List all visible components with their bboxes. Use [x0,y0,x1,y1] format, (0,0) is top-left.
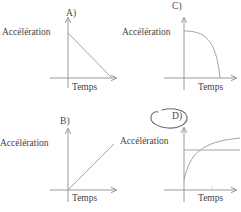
panel-d: D) Accélération Temps [120,106,240,212]
plot-b [0,106,120,212]
plot-a [0,0,120,106]
worksheet-page: A) Accélération Temps C) Accélération Te… [0,0,241,212]
handdrawn-ellipse-annotation [146,106,192,132]
panel-c: C) Accélération Temps [120,0,240,106]
curve-a [68,33,112,78]
curve-d [184,138,240,180]
panel-a: A) Accélération Temps [0,0,120,106]
curve-b [68,144,114,190]
panel-b: B) Accélération Temps [0,106,120,212]
curve-c [184,31,220,78]
plot-c [120,0,240,106]
